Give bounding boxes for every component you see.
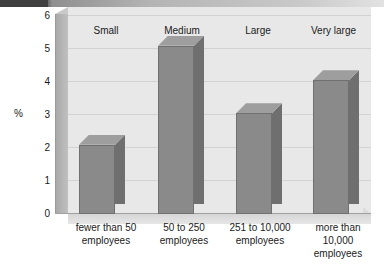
bar-front-0 <box>79 145 115 214</box>
y-tick-4: 4 <box>30 76 50 87</box>
y-axis-title: % <box>14 108 23 119</box>
y-tick-3: 3 <box>30 109 50 120</box>
axis-wall-top-bevel <box>55 7 68 14</box>
bar-front-2 <box>236 113 272 214</box>
bar-side-2 <box>272 103 282 204</box>
y-tick-1: 1 <box>30 175 50 186</box>
bar-front-1 <box>158 46 194 214</box>
x-tick-label-0: fewer than 50 employees <box>62 221 150 247</box>
x-tick-3-line1: more than <box>298 221 378 234</box>
x-tick-3-line3: employees <box>298 247 378 260</box>
x-tick-2-line2: employees <box>214 234 306 247</box>
bar-side-1 <box>194 36 204 204</box>
gridline-6 <box>68 15 371 16</box>
bar-side-0 <box>115 135 125 204</box>
y-tick-6: 6 <box>30 10 50 21</box>
x-tick-0-line2: employees <box>62 234 150 247</box>
gridline-5 <box>68 48 371 49</box>
bar-chart: % 0 1 2 3 4 5 6 Small Medium Large Very … <box>0 0 384 267</box>
category-header-large: Large <box>220 25 296 36</box>
bar-front-3 <box>313 80 349 214</box>
y-tick-0: 0 <box>30 208 50 219</box>
x-tick-0-line1: fewer than 50 <box>62 221 150 234</box>
x-tick-2-line1: 251 to 10,000 <box>214 221 306 234</box>
x-tick-label-2: 251 to 10,000 employees <box>214 221 306 247</box>
bar-side-3 <box>349 70 359 204</box>
y-tick-2: 2 <box>30 142 50 153</box>
y-axis-3d-wall <box>55 14 69 214</box>
category-header-medium: Medium <box>144 25 220 36</box>
category-header-small: Small <box>68 25 144 36</box>
y-tick-5: 5 <box>30 43 50 54</box>
category-header-very-large: Very large <box>296 25 371 36</box>
x-tick-3-line2: 10,000 <box>298 234 378 247</box>
x-tick-label-3: more than 10,000 employees <box>298 221 378 260</box>
